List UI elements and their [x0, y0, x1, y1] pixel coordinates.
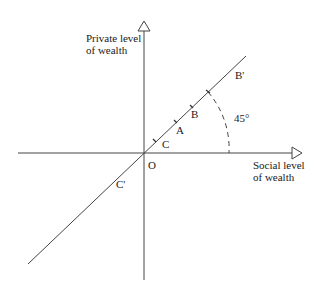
point-label-a: A	[176, 124, 184, 136]
point-label-b: B	[191, 108, 198, 120]
y-axis-arrow-icon	[138, 21, 150, 31]
angle-label: 45°	[234, 112, 249, 124]
x-axis-label: Social level of wealth	[253, 159, 305, 183]
angle-arc	[208, 92, 229, 153]
tick-a	[174, 120, 177, 123]
point-label-b-prime: B'	[235, 69, 244, 81]
origin-label: O	[148, 159, 156, 171]
x-axis-arrow-icon	[292, 147, 302, 159]
y-axis-label: Private level of wealth	[86, 32, 141, 56]
point-label-c-prime: C'	[116, 178, 125, 190]
point-label-c: C	[162, 138, 169, 150]
tick-c	[153, 139, 156, 142]
wealth-diagram	[0, 0, 317, 297]
diagonal-45-line	[28, 56, 246, 264]
